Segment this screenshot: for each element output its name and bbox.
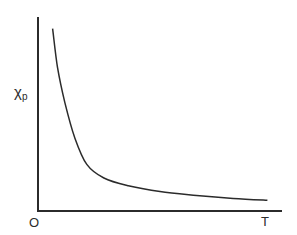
- y-axis-label: χp: [14, 84, 27, 102]
- susceptibility-curve: [53, 29, 268, 201]
- origin-label: O: [29, 216, 39, 229]
- x-axis-label: T: [261, 215, 269, 228]
- chart-canvas: [0, 0, 297, 235]
